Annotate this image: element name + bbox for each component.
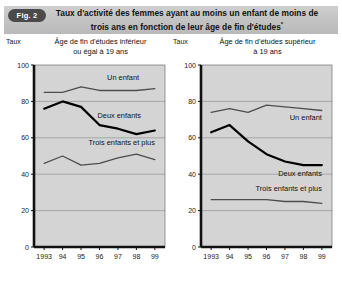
x-tick-label-94: 94 xyxy=(226,253,234,260)
x-tick-label-97: 97 xyxy=(281,253,289,260)
x-tick-label-95: 95 xyxy=(77,253,85,260)
chart-subtitle-right-line-1: Âge de fin d'études supérieur xyxy=(220,37,316,46)
y-tick-label-60: 60 xyxy=(21,134,29,141)
series-label-trois-enfants-et-plus: Trois enfants et plus xyxy=(89,138,156,147)
y-axis-unit-right: Taux xyxy=(171,37,203,45)
series-label-trois-enfants-et-plus: Trois enfants et plus xyxy=(256,184,323,193)
y-tick-label-40: 40 xyxy=(188,171,196,178)
figure-header-banner: Fig. 2 Taux d'activité des femmes ayant … xyxy=(4,6,338,34)
y-tick-label-80: 80 xyxy=(21,98,29,105)
chart-panel-right: Taux Âge de fin d'études supérieur à 19 … xyxy=(171,37,338,287)
x-tick-label-1993: 1993 xyxy=(36,253,52,260)
y-tick-label-100: 100 xyxy=(184,62,196,69)
y-tick-label-40: 40 xyxy=(21,171,29,178)
figure-container: Fig. 2 Taux d'activité des femmes ayant … xyxy=(0,6,342,294)
chart-panel-left-header: Taux Âge de fin d'études inférieur ou ég… xyxy=(4,37,171,59)
chart-panel-left: Taux Âge de fin d'études inférieur ou ég… xyxy=(4,37,171,287)
chart-subtitle-left: Âge de fin d'études inférieur ou égal à … xyxy=(36,37,171,56)
x-tick-label-99: 99 xyxy=(151,253,159,260)
y-tick-label-80: 80 xyxy=(188,98,196,105)
y-tick-label-20: 20 xyxy=(21,207,29,214)
figure-title: Taux d'activité des femmes ayant au moin… xyxy=(4,8,338,33)
x-tick-label-96: 96 xyxy=(96,253,104,260)
x-tick-label-95: 95 xyxy=(244,253,252,260)
y-axis-unit-left: Taux xyxy=(4,37,36,45)
x-tick-label-98: 98 xyxy=(300,253,308,260)
y-tick-label-0: 0 xyxy=(192,244,196,251)
line-chart-right: 0204060801001993949596979899Un enfantDeu… xyxy=(171,59,338,277)
figure-title-line-1: Taux d'activité des femmes ayant au moin… xyxy=(56,8,318,18)
figure-number-badge: Fig. 2 xyxy=(8,9,46,22)
y-tick-label-60: 60 xyxy=(188,134,196,141)
series-label-un-enfant: Un enfant xyxy=(290,113,322,122)
chart-subtitle-left-line-2: ou égal à 19 ans xyxy=(73,47,128,56)
plot-background xyxy=(201,65,332,247)
series-label-deux-enfants: Deux enfants xyxy=(97,111,141,120)
plot-area-right: 0204060801001993949596979899Un enfantDeu… xyxy=(171,59,338,277)
x-tick-label-96: 96 xyxy=(263,253,271,260)
chart-subtitle-right-line-2: à 19 ans xyxy=(253,47,281,56)
y-tick-label-20: 20 xyxy=(188,207,196,214)
chart-subtitle-left-line-1: Âge de fin d'études inférieur xyxy=(55,37,147,46)
figure-title-footnote-marker: * xyxy=(281,21,283,27)
x-tick-label-94: 94 xyxy=(59,253,67,260)
series-label-un-enfant: Un enfant xyxy=(107,73,139,82)
chart-subtitle-right: Âge de fin d'études supérieur à 19 ans xyxy=(203,37,338,56)
x-tick-label-1993: 1993 xyxy=(203,253,219,260)
plot-area-left: 0204060801001993949596979899Un enfantDeu… xyxy=(4,59,171,277)
y-tick-label-100: 100 xyxy=(17,62,29,69)
chart-panel-right-header: Taux Âge de fin d'études supérieur à 19 … xyxy=(171,37,338,59)
line-chart-left: 0204060801001993949596979899Un enfantDeu… xyxy=(4,59,171,277)
charts-row: Taux Âge de fin d'études inférieur ou ég… xyxy=(4,37,338,287)
y-tick-label-0: 0 xyxy=(25,244,29,251)
x-tick-label-98: 98 xyxy=(133,253,141,260)
series-label-deux-enfants: Deux enfants xyxy=(278,169,322,178)
x-tick-label-97: 97 xyxy=(114,253,122,260)
x-tick-label-99: 99 xyxy=(318,253,326,260)
figure-title-line-2: trois ans en fonction de leur âge de fin… xyxy=(91,21,281,31)
